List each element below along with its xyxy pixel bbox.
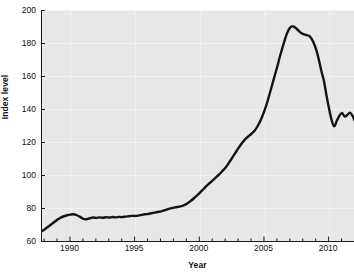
x-axis-label: Year bbox=[41, 260, 354, 270]
series-index-level bbox=[42, 10, 354, 241]
x-tick-label: 1990 bbox=[49, 244, 89, 253]
plot-area bbox=[41, 10, 354, 242]
chart-figure: Index level 6080100120140160180200 19901… bbox=[0, 0, 354, 279]
y-tick-label: 80 bbox=[10, 204, 36, 213]
x-tick-label: 1995 bbox=[114, 244, 154, 253]
y-tick-label: 120 bbox=[10, 138, 36, 147]
y-tick-label: 160 bbox=[10, 72, 36, 81]
x-tick-label: 2010 bbox=[308, 244, 348, 253]
y-tick-label: 180 bbox=[10, 39, 36, 48]
x-tick-label: 2005 bbox=[243, 244, 283, 253]
x-tick-label: 2000 bbox=[179, 244, 219, 253]
x-axis-tick-labels: 19901995200020052010 bbox=[0, 244, 354, 258]
y-tick-label: 140 bbox=[10, 105, 36, 114]
y-tick-label: 100 bbox=[10, 171, 36, 180]
y-axis-tick-labels: 6080100120140160180200 bbox=[6, 0, 36, 279]
y-tick-label: 200 bbox=[10, 6, 36, 15]
